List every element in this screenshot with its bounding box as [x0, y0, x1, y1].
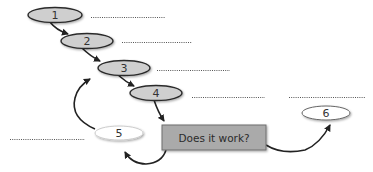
result-node-6-label: 6 — [323, 107, 330, 120]
blank-lines — [10, 18, 365, 140]
arrow-1-to-2 — [50, 22, 68, 34]
arrow-2-to-3 — [82, 48, 100, 61]
arrow-3-to-4 — [118, 75, 134, 86]
arrow-decision-to-6 — [266, 125, 330, 152]
arrow-decision-to-5 — [125, 150, 166, 164]
step-node-1-label: 1 — [52, 9, 59, 22]
arrow-5-to-3 — [74, 79, 95, 129]
decision-box-label: Does it work? — [178, 132, 249, 144]
step-node-4-label: 4 — [153, 87, 160, 100]
arrow-4-to-decision — [154, 100, 164, 121]
loop-node-5-label: 5 — [116, 127, 123, 140]
step-node-3-label: 3 — [121, 62, 128, 75]
process-flow-diagram: 1 2 3 4 5 6 Does it work? — [0, 0, 373, 172]
step-node-2-label: 2 — [84, 35, 91, 48]
